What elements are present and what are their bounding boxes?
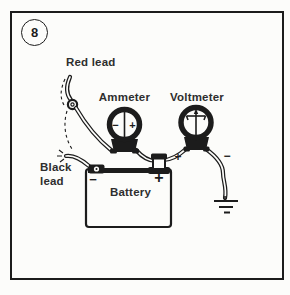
battery-negative-sign: −	[87, 173, 99, 186]
ammeter-label: Ammeter	[97, 91, 152, 105]
battery-positive-sign: +	[151, 170, 167, 186]
ammeter-gauge	[110, 110, 140, 154]
red-lead-dashed-upper	[61, 79, 65, 105]
red-lead-dashed-lower	[65, 111, 72, 149]
black-lead-label: Black lead	[40, 161, 84, 188]
battery-label: Battery	[103, 186, 158, 200]
red-lead-wire-stub	[67, 77, 71, 100]
red-lead-wire	[76, 108, 111, 150]
positive-wire-sign: +	[172, 151, 184, 164]
voltmeter-label: Voltmeter	[167, 91, 227, 105]
figure-number-badge: 8	[21, 19, 48, 46]
negative-wire-sign: −	[221, 150, 233, 163]
voltmeter-gauge	[181, 108, 211, 152]
red-lead-label: Red lead	[66, 56, 116, 70]
ammeter-minus-sign: −	[110, 119, 121, 131]
figure-8-wiring-diagram: 8 Red lead Ammeter Voltmeter Black lead …	[0, 0, 290, 295]
diagram-art	[0, 0, 290, 295]
figure-number: 8	[31, 25, 38, 40]
ammeter-plus-sign: +	[127, 119, 138, 131]
